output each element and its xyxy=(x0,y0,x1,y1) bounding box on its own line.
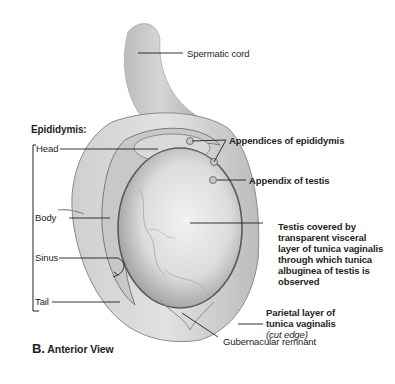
figure-caption: B. Anterior View xyxy=(32,343,114,355)
label-sinus: Sinus xyxy=(35,252,58,263)
testis-shape xyxy=(118,148,242,308)
epididymis-bracket xyxy=(33,145,39,311)
figure-letter: B. xyxy=(32,341,45,356)
label-tail: Tail xyxy=(35,296,49,307)
label-epididymis-heading: Epididymis: xyxy=(31,124,87,135)
label-appendices-epididymis: Appendices of epididymis xyxy=(229,135,344,146)
label-testis-covered: Testis covered by transparent visceral l… xyxy=(278,221,393,287)
figure-view: Anterior View xyxy=(47,343,113,355)
spermatic-cord-shape xyxy=(124,24,200,125)
appendix-testis xyxy=(210,177,217,184)
label-gubernacular-remnant: Gubernacular remnant xyxy=(223,336,316,347)
label-body: Body xyxy=(35,212,56,223)
label-appendix-testis: Appendix of testis xyxy=(249,175,330,186)
label-spermatic-cord: Spermatic cord xyxy=(187,48,249,59)
label-head: Head xyxy=(36,143,58,154)
